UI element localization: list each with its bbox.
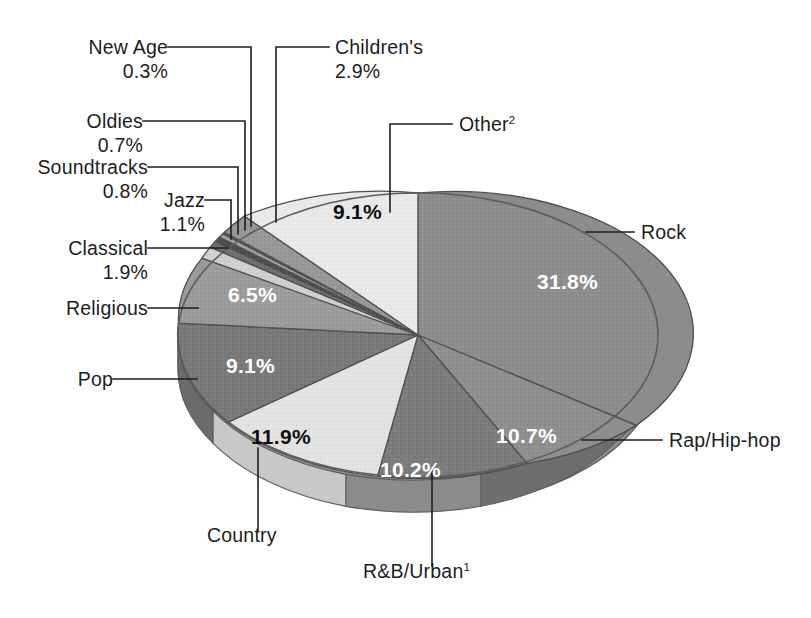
callout-other: Other2 bbox=[459, 113, 515, 137]
callout-pop: Pop bbox=[0, 368, 113, 392]
callout-country-name: Country bbox=[207, 524, 277, 546]
callout-oldies-name: Oldies bbox=[87, 110, 143, 132]
callout-rnb-urban-footnote: 1 bbox=[463, 561, 470, 573]
value-label-rock: 31.8% bbox=[537, 270, 598, 294]
callout-childrens-name: Children's bbox=[335, 36, 423, 58]
callout-pop-name: Pop bbox=[78, 368, 113, 390]
callout-rock-name: Rock bbox=[641, 221, 686, 243]
leader-other bbox=[390, 124, 452, 212]
callout-jazz: Jazz 1.1% bbox=[0, 189, 205, 237]
callout-oldies-pct: 0.7% bbox=[98, 134, 143, 156]
value-label-rnb-urban: 10.2% bbox=[380, 458, 441, 482]
callout-other-footnote: 2 bbox=[509, 114, 516, 126]
callout-oldies: Oldies 0.7% bbox=[0, 110, 143, 158]
callout-rnb-urban: R&B/Urban1 bbox=[363, 560, 470, 584]
callout-new-age-name: New Age bbox=[89, 36, 168, 58]
callout-soundtracks-name: Soundtracks bbox=[37, 156, 148, 178]
callout-classical-name: Classical bbox=[68, 237, 148, 259]
pie-chart-figure: New Age 0.3% Oldies 0.7% Soundtracks 0.8… bbox=[0, 0, 811, 618]
callout-classical: Classical 1.9% bbox=[0, 237, 148, 285]
value-label-pop: 9.1% bbox=[226, 354, 275, 378]
callout-jazz-pct: 1.1% bbox=[160, 213, 205, 235]
callout-jazz-name: Jazz bbox=[164, 189, 205, 211]
leader-childrens bbox=[276, 47, 329, 222]
value-label-religious: 6.5% bbox=[228, 283, 277, 307]
callout-classical-pct: 1.9% bbox=[103, 261, 148, 283]
callout-childrens: Children's 2.9% bbox=[335, 36, 423, 84]
callout-rap-hip-hop: Rap/Hip-hop bbox=[669, 429, 781, 453]
callout-rock: Rock bbox=[641, 221, 686, 245]
value-label-country: 11.9% bbox=[251, 425, 311, 449]
callout-religious-name: Religious bbox=[66, 297, 148, 319]
callout-rnb-urban-name: R&B/Urban bbox=[363, 560, 463, 582]
callout-rap-hip-hop-name: Rap/Hip-hop bbox=[669, 429, 781, 451]
callout-new-age-pct: 0.3% bbox=[123, 60, 168, 82]
callout-other-name: Other bbox=[459, 113, 509, 135]
value-label-other: 9.1% bbox=[333, 200, 382, 224]
leader-jazz bbox=[205, 200, 231, 239]
callout-childrens-pct: 2.9% bbox=[335, 60, 380, 82]
callout-country: Country bbox=[207, 524, 277, 548]
value-label-rap-hip-hop: 10.7% bbox=[496, 424, 557, 448]
callout-new-age: New Age 0.3% bbox=[0, 36, 168, 84]
callout-religious: Religious bbox=[0, 297, 148, 321]
